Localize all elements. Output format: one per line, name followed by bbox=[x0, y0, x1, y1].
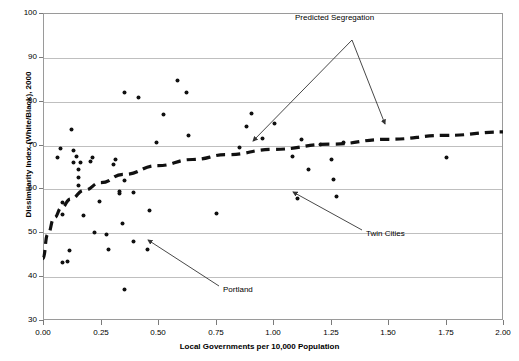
data-point bbox=[132, 191, 135, 194]
y-tick-label-60: 60 bbox=[0, 184, 37, 192]
x-tick-label-1.75: 1.75 bbox=[426, 328, 466, 337]
data-point bbox=[56, 156, 59, 159]
x-tick-label-0.00: 0.00 bbox=[23, 328, 63, 337]
data-point bbox=[61, 201, 64, 204]
data-point bbox=[70, 128, 73, 131]
x-tick-label-1.00: 1.00 bbox=[253, 328, 293, 337]
y-tick-label-100: 100 bbox=[0, 9, 37, 17]
data-point bbox=[75, 155, 78, 158]
data-point bbox=[155, 141, 158, 144]
x-tick-mark-1.50 bbox=[388, 320, 389, 325]
data-point bbox=[342, 141, 345, 144]
data-point bbox=[105, 233, 108, 236]
data-point bbox=[112, 163, 115, 166]
x-tick-mark-1.25 bbox=[331, 320, 332, 325]
data-point bbox=[82, 214, 85, 217]
y-tick-label-80: 80 bbox=[0, 97, 37, 105]
data-point bbox=[307, 168, 310, 171]
scatter-chart: Dissimilarity Index (White/Black), 2000 … bbox=[0, 0, 519, 361]
data-point bbox=[148, 209, 151, 212]
x-tick-mark-1.00 bbox=[273, 320, 274, 325]
data-point bbox=[59, 147, 62, 150]
data-point bbox=[77, 176, 80, 179]
data-point bbox=[98, 200, 101, 203]
data-point bbox=[330, 158, 333, 161]
data-point bbox=[273, 122, 276, 125]
x-tick-mark-0.00 bbox=[43, 320, 44, 325]
data-point bbox=[123, 91, 126, 94]
data-point bbox=[123, 179, 126, 182]
data-point bbox=[114, 158, 117, 161]
annotation-label-predicted-segregation: Predicted Segregation bbox=[295, 13, 374, 22]
gridline-y-40 bbox=[44, 277, 502, 278]
x-tick-mark-1.75 bbox=[446, 320, 447, 325]
gridline-y-80 bbox=[44, 102, 502, 103]
x-tick-mark-0.50 bbox=[158, 320, 159, 325]
data-point bbox=[335, 195, 338, 198]
gridline-y-60 bbox=[44, 189, 502, 190]
data-point bbox=[319, 143, 322, 146]
data-point bbox=[72, 149, 75, 152]
y-tick-label-30: 30 bbox=[0, 316, 37, 324]
data-point bbox=[79, 161, 82, 164]
data-point bbox=[187, 134, 190, 137]
data-point bbox=[176, 79, 179, 82]
data-point bbox=[89, 160, 92, 163]
x-tick-label-2.00: 2.00 bbox=[483, 328, 519, 337]
y-tick-label-40: 40 bbox=[0, 272, 37, 280]
data-point bbox=[132, 240, 135, 243]
x-tick-label-1.25: 1.25 bbox=[311, 328, 351, 337]
annotation-label-portland: Portland bbox=[223, 285, 253, 294]
data-point bbox=[68, 249, 71, 252]
data-point bbox=[146, 248, 149, 251]
data-point bbox=[185, 91, 188, 94]
data-point bbox=[66, 260, 69, 263]
data-point bbox=[61, 261, 64, 264]
data-point bbox=[77, 184, 80, 187]
data-point bbox=[162, 113, 165, 116]
x-tick-label-1.50: 1.50 bbox=[368, 328, 408, 337]
data-point bbox=[238, 146, 241, 149]
data-point bbox=[445, 156, 448, 159]
x-tick-label-0.75: 0.75 bbox=[196, 328, 236, 337]
y-tick-label-50: 50 bbox=[0, 228, 37, 236]
gridline-y-70 bbox=[44, 146, 502, 147]
x-tick-mark-0.75 bbox=[216, 320, 217, 325]
data-point bbox=[332, 178, 335, 181]
data-point bbox=[61, 213, 64, 216]
data-point bbox=[107, 248, 110, 251]
data-point bbox=[123, 288, 126, 291]
data-point bbox=[137, 96, 140, 99]
x-tick-mark-0.25 bbox=[101, 320, 102, 325]
data-point bbox=[77, 168, 80, 171]
y-tick-label-70: 70 bbox=[0, 141, 37, 149]
annotation-label-twin-cities: Twin Cities bbox=[366, 229, 405, 238]
data-point bbox=[250, 112, 253, 115]
x-tick-label-0.50: 0.50 bbox=[138, 328, 178, 337]
data-point bbox=[121, 222, 124, 225]
gridline-y-90 bbox=[44, 58, 502, 59]
data-point bbox=[72, 161, 75, 164]
data-point bbox=[296, 197, 299, 200]
data-point bbox=[118, 192, 121, 195]
data-point bbox=[245, 125, 248, 128]
x-axis-title: Local Governments per 10,000 Population bbox=[0, 342, 519, 351]
plot-area bbox=[43, 13, 503, 320]
y-tick-label-90: 90 bbox=[0, 53, 37, 61]
data-point bbox=[261, 137, 264, 140]
data-point bbox=[300, 138, 303, 141]
gridline-y-50 bbox=[44, 233, 502, 234]
data-point bbox=[91, 156, 94, 159]
x-tick-mark-2.00 bbox=[503, 320, 504, 325]
data-point bbox=[215, 212, 218, 215]
data-point bbox=[93, 231, 96, 234]
x-tick-label-0.25: 0.25 bbox=[81, 328, 121, 337]
data-point bbox=[291, 155, 294, 158]
